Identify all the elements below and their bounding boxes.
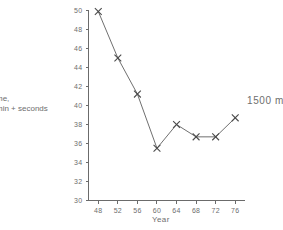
y-axis-tick-label-group: 3032343638404244464850: [74, 7, 82, 204]
x-axis-tick-label: 52: [114, 207, 122, 214]
line-chart-plot: 3032343638404244464850 4852566064687276: [0, 0, 283, 230]
data-point-marker: [154, 145, 161, 152]
y-axis-tick-label: 32: [74, 178, 82, 185]
x-axis-label: Year: [152, 215, 170, 224]
data-point-marker: [134, 91, 141, 98]
y-axis-tick-label: 50: [74, 7, 82, 14]
x-axis-tick-label: 48: [94, 207, 102, 214]
x-axis-tick-label-group: 4852566064687276: [94, 207, 239, 214]
series-annotation-label: 1500 m: [247, 95, 283, 106]
x-axis-tick-label: 72: [211, 207, 219, 214]
y-axis-tick-label: 46: [74, 45, 82, 52]
series-line-1500m: [98, 11, 235, 148]
y-axis-tick-label: 38: [74, 121, 82, 128]
y-axis-tick-label: 44: [74, 64, 82, 71]
y-axis-tick-label: 42: [74, 83, 82, 90]
data-point-marker: [114, 55, 121, 62]
data-point-marker: [232, 114, 239, 121]
x-axis-tick-label: 64: [172, 207, 180, 214]
x-axis-tick-label: 60: [153, 207, 161, 214]
y-axis-label-line-2: min + seconds: [0, 104, 48, 113]
y-axis-tick-label: 30: [74, 197, 82, 204]
x-axis-tick-label: 56: [133, 207, 141, 214]
y-axis-tick-label: 36: [74, 140, 82, 147]
series-marker-group: [95, 8, 239, 152]
chart-container: 3032343638404244464850 4852566064687276 …: [0, 0, 283, 230]
y-axis-tick-label: 40: [74, 102, 82, 109]
y-axis-label-line-1: me,: [0, 94, 9, 103]
y-axis-label: me,min + seconds: [0, 94, 48, 114]
x-axis-tick-label: 68: [192, 207, 200, 214]
data-point-marker: [95, 8, 102, 15]
data-point-marker: [173, 121, 180, 128]
y-axis-tick-label: 48: [74, 26, 82, 33]
x-axis-tick-label: 76: [231, 207, 239, 214]
y-axis-tick-label: 34: [74, 159, 82, 166]
